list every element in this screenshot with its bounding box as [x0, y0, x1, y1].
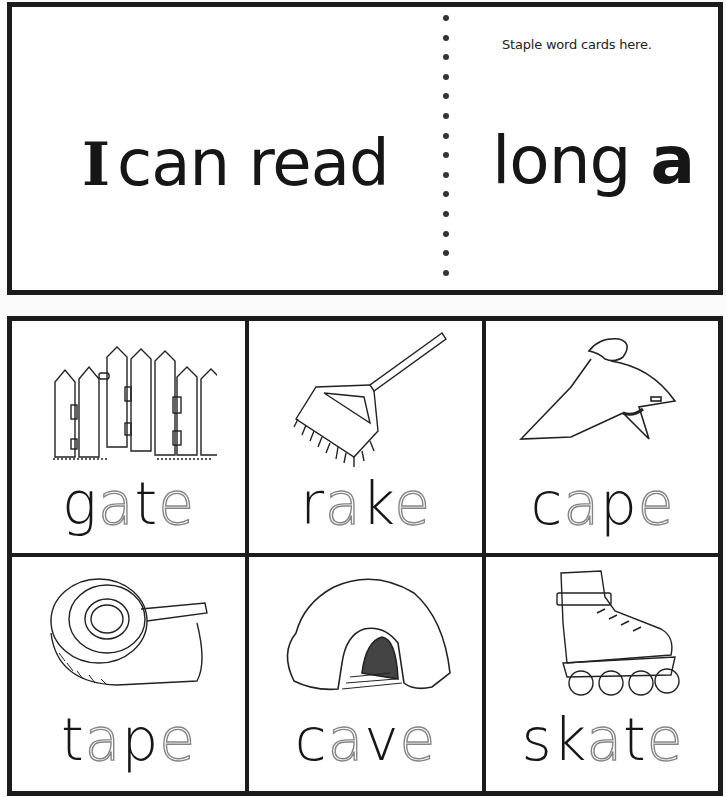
title-vowel-a: a: [650, 122, 694, 199]
tracing-letter: e: [638, 470, 675, 538]
staple-instruction: Staple word cards here.: [502, 37, 652, 52]
solid-letter: s: [522, 706, 553, 774]
tracing-letter: e: [647, 706, 684, 774]
title-i-can-read: Ican read: [82, 123, 389, 204]
card-word: rake: [249, 473, 482, 535]
title-can-read: can read: [117, 126, 388, 200]
solid-letter: p: [121, 706, 159, 774]
word-card-tape[interactable]: tape: [12, 557, 245, 790]
solid-letter: t: [61, 706, 85, 774]
word-card-cape[interactable]: cape: [486, 321, 719, 554]
cape-icon: [511, 327, 691, 467]
word-card-gate[interactable]: gate: [12, 321, 245, 554]
divider-dot: [443, 74, 449, 80]
title-panel: Staple word cards here. Ican read long a: [7, 2, 723, 295]
card-word: skate: [486, 709, 719, 771]
tracing-letter: a: [563, 470, 600, 538]
solid-letter: k: [362, 470, 395, 538]
divider-dot: [443, 211, 449, 217]
tracing-letter: a: [325, 470, 362, 538]
solid-letter: t: [134, 470, 158, 538]
tracing-letter: e: [158, 470, 195, 538]
staple-dotted-divider: [443, 9, 451, 287]
divider-dot: [443, 113, 449, 119]
word-card-rake[interactable]: rake: [249, 321, 482, 554]
title-long-a: long a: [492, 121, 694, 201]
divider-dot: [443, 35, 449, 41]
solid-letter: c: [531, 470, 564, 538]
title-i: I: [82, 129, 109, 199]
divider-dot: [443, 54, 449, 60]
cave-icon: [274, 563, 454, 703]
card-word: cape: [486, 473, 719, 535]
word-card-cave[interactable]: cave: [249, 557, 482, 790]
solid-letter: g: [62, 470, 98, 538]
divider-dot: [443, 172, 449, 178]
divider-dot: [443, 133, 449, 139]
divider-dot: [443, 15, 449, 21]
tracing-letter: a: [98, 470, 135, 538]
solid-letter: v: [364, 706, 399, 774]
solid-letter: c: [295, 706, 328, 774]
divider-dot: [443, 270, 449, 276]
solid-letter: p: [600, 470, 638, 538]
solid-letter: t: [623, 706, 647, 774]
divider-dot: [443, 152, 449, 158]
rake-icon: [274, 327, 454, 467]
card-word: cave: [249, 709, 482, 771]
word-card-skate[interactable]: skate: [486, 557, 719, 790]
divider-dot: [443, 191, 449, 197]
tracing-letter: e: [159, 706, 196, 774]
tracing-letter: a: [586, 706, 623, 774]
divider-dot: [443, 250, 449, 256]
solid-letter: k: [553, 706, 587, 774]
word-card-grid: gate rake cape tape: [7, 316, 723, 796]
solid-letter: r: [300, 470, 325, 538]
tracing-letter: a: [328, 706, 365, 774]
title-long: long: [492, 122, 630, 199]
tracing-letter: a: [85, 706, 122, 774]
fence-gate-icon: [37, 327, 217, 467]
inline-skate-icon: [511, 563, 691, 703]
card-word: gate: [12, 473, 245, 535]
tape-dispenser-icon: [37, 563, 217, 703]
card-word: tape: [12, 709, 245, 771]
tracing-letter: e: [394, 470, 431, 538]
divider-dot: [443, 93, 449, 99]
tracing-letter: e: [400, 706, 437, 774]
divider-dot: [443, 231, 449, 237]
